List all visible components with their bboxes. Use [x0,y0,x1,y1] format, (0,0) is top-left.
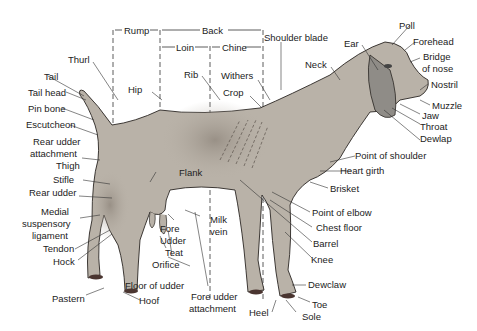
label-tendon: Tendon [43,243,74,254]
label-hoof: Hoof [139,295,159,306]
region-loin: Loin [176,42,194,53]
label-orifice: Orifice [152,259,179,270]
label-thigh: Thigh [56,160,80,171]
label-point-of-elbow: Point of elbow [312,207,372,218]
label-barrel: Barrel [313,238,338,249]
label-pastern: Pastern [52,293,85,304]
label-chest-floor: Chest floor [316,222,362,233]
label-toe: Toe [312,299,327,310]
label-fore-udder-attachment-1: Fore udder [191,291,237,302]
label-fore-udder-attachment-2: attachment [189,303,236,314]
label-milk-vein-2: vein [210,226,227,237]
label-tail: Tail [44,71,58,82]
label-rear-udder-attachment-2: attachment [30,148,77,159]
label-fore: Fore [160,223,180,234]
label-bridge-of-nose-1: Bridge [423,51,450,62]
label-udder: Udder [160,235,186,246]
label-jaw: Jaw [422,110,439,121]
label-poll: Poll [399,20,415,31]
label-rear-udder: Rear udder [29,187,77,198]
label-flank: Flank [179,167,202,178]
label-hip: Hip [128,84,142,95]
label-thurl: Thurl [68,54,90,65]
label-bridge-of-nose-2: of nose [422,63,453,74]
label-knee: Knee [311,254,333,265]
label-dewlap: Dewlap [420,133,452,144]
label-heart-girth: Heart girth [340,165,384,176]
label-escutcheon: Escutcheon [26,119,76,130]
label-hock: Hock [53,256,75,267]
region-chine: Chine [222,42,247,53]
label-nostril: Nostril [431,79,458,90]
label-sole: Sole [302,311,321,322]
label-withers: Withers [221,70,253,81]
label-crop: Crop [223,87,244,98]
label-point-of-shoulder: Point of shoulder [355,150,426,161]
label-medial-1: Medial [41,206,69,217]
label-milk-vein-1: Milk [210,214,227,225]
label-throat: Throat [420,121,447,132]
label-shoulder-blade: Shoulder blade [264,32,328,43]
label-brisket: Brisket [330,183,359,194]
region-rump: Rump [124,25,149,36]
label-floor-of-udder: Floor of udder [125,280,184,291]
label-heel: Heel [249,307,269,318]
label-rear-udder-attachment-1: Rear udder [33,136,81,147]
label-medial-2: suspensory [22,218,71,229]
label-medial-3: ligament [32,230,68,241]
label-pin-bone: Pin bone [28,103,66,114]
label-forehead: Forehead [413,36,454,47]
label-ear: Ear [344,38,359,49]
label-stifle: Stifle [53,174,74,185]
label-teat: Teat [165,247,183,258]
region-back: Back [202,25,223,36]
label-rib: Rib [184,69,198,80]
label-tail-head: Tail head [28,87,66,98]
label-neck: Neck [305,59,327,70]
label-dewclaw: Dewclaw [308,279,346,290]
